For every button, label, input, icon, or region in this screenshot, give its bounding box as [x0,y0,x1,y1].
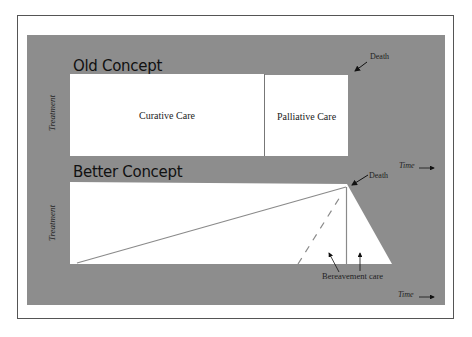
old-death-arrow-icon [355,62,367,71]
diagram-graphics [0,0,472,337]
better-death-arrow-icon [352,175,368,185]
